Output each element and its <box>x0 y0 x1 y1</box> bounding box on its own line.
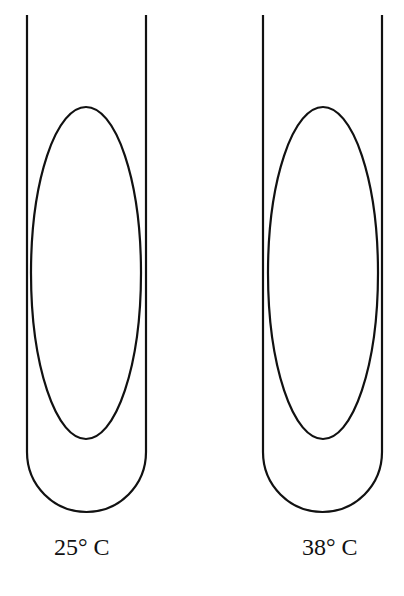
tube-left <box>27 15 146 512</box>
tube-right-outline <box>263 15 382 512</box>
label-right-temperature: 38° C <box>302 534 358 561</box>
diagram-canvas <box>0 0 404 596</box>
ellipse-left <box>31 107 141 439</box>
ellipse-right <box>268 107 378 439</box>
tube-right <box>263 15 382 512</box>
tube-left-outline <box>27 15 146 512</box>
label-left-temperature: 25° C <box>54 534 110 561</box>
